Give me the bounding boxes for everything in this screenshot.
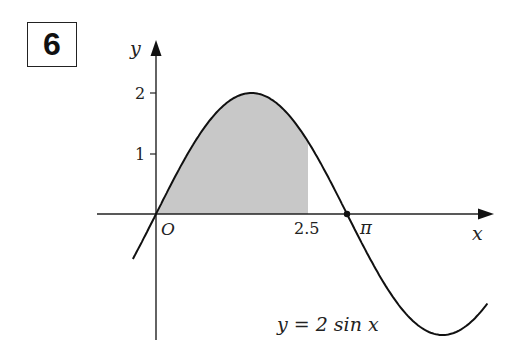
origin-label: O	[161, 219, 175, 239]
y-axis-label: y	[129, 37, 141, 59]
y-tick-label-1: 1	[135, 145, 145, 164]
sine-graph: y x O 1 2 2.5 π y = 2 sin x	[0, 0, 512, 361]
y-tick-label-2: 2	[135, 84, 145, 103]
y-axis-arrow-icon	[151, 40, 162, 56]
x-tick-label-pi: π	[359, 217, 373, 238]
x-axis-arrow-icon	[478, 209, 494, 220]
pi-point-marker	[344, 211, 350, 217]
x-axis-label: x	[472, 222, 483, 244]
curve-equation-label: y = 2 sin x	[276, 313, 379, 335]
x-tick-label-2-5: 2.5	[294, 219, 319, 238]
